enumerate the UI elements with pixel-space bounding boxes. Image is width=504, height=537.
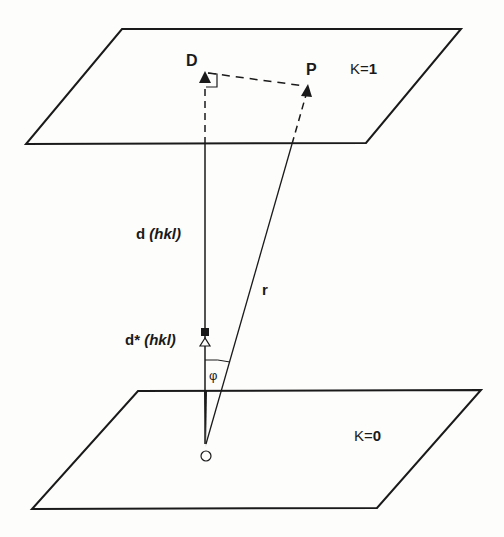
- label-d-hkl: d (hkl): [136, 226, 181, 241]
- plane-k0-val: 0: [373, 427, 381, 444]
- r-vector-dashed: [292, 95, 306, 144]
- reciprocal-lattice-diagram: [0, 0, 504, 537]
- plane-k1-val: 1: [369, 60, 377, 77]
- d-symbol: d: [136, 225, 145, 242]
- plane-k1-var: K: [350, 60, 360, 77]
- plane-k0-var: K: [354, 427, 364, 444]
- dstar-hkl-index: (hkl): [144, 331, 176, 348]
- phi-angle-arc: [205, 360, 230, 362]
- label-plane-k1: K=1: [350, 61, 377, 76]
- plane-k0: [32, 390, 481, 509]
- arrowhead-p-icon: [301, 84, 312, 97]
- r-vector-solid: [206, 144, 292, 444]
- dstar-symbol: d*: [125, 331, 140, 348]
- label-plane-k0: K=0: [354, 428, 381, 443]
- dstar-triangle-icon: [200, 338, 210, 346]
- label-p-point: P: [306, 62, 317, 78]
- d-hkl-index: (hkl): [149, 225, 181, 242]
- label-r-vector: r: [262, 282, 268, 297]
- origin-circle-icon: [201, 451, 211, 461]
- label-phi-angle: φ: [209, 369, 217, 382]
- dp-dashed-line: [208, 73, 305, 86]
- label-dstar-hkl: d* (hkl): [125, 332, 176, 347]
- plane-k1-eq: =: [360, 60, 369, 77]
- label-d-point: D: [186, 53, 198, 69]
- plane-k1: [26, 29, 461, 144]
- dstar-square-icon: [201, 328, 209, 336]
- plane-k0-eq: =: [364, 427, 373, 444]
